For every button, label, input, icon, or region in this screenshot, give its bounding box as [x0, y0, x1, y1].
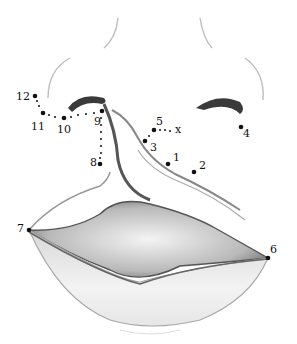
- landmark-dot-11: [41, 111, 46, 116]
- lip-drawing: [0, 0, 297, 344]
- landmark-dot-2: [192, 170, 197, 175]
- nose: [48, 18, 263, 100]
- landmark-label-5: 5: [156, 116, 163, 127]
- landmark-dot-6: [266, 256, 271, 261]
- landmark-label-1: 1: [173, 152, 180, 163]
- landmark-label-6: 6: [270, 244, 277, 255]
- left-nostril: [68, 96, 106, 112]
- landmark-label-12: 12: [16, 91, 30, 102]
- landmark-dot-10: [62, 116, 67, 121]
- landmark-label-7: 7: [17, 223, 24, 234]
- landmark-label-x: x: [175, 124, 181, 135]
- landmark-dot-9: [100, 109, 105, 114]
- landmark-label-2: 2: [199, 160, 206, 171]
- landmark-dot-7: [27, 228, 32, 233]
- landmark-dot-3: [143, 139, 148, 144]
- landmark-dot-5: [152, 128, 157, 133]
- right-nostril: [196, 98, 243, 114]
- landmark-dot-8: [98, 162, 103, 167]
- landmark-label-9: 9: [94, 116, 101, 127]
- landmark-label-10: 10: [57, 124, 71, 135]
- landmark-label-4: 4: [243, 128, 250, 139]
- landmark-label-11: 11: [31, 121, 45, 132]
- landmark-label-3: 3: [150, 142, 157, 153]
- landmark-dot-1: [166, 162, 171, 167]
- cleft-lip-diagram: 12345x6789101112: [0, 0, 297, 344]
- landmark-dot-12: [33, 94, 38, 99]
- landmark-label-8: 8: [90, 157, 97, 168]
